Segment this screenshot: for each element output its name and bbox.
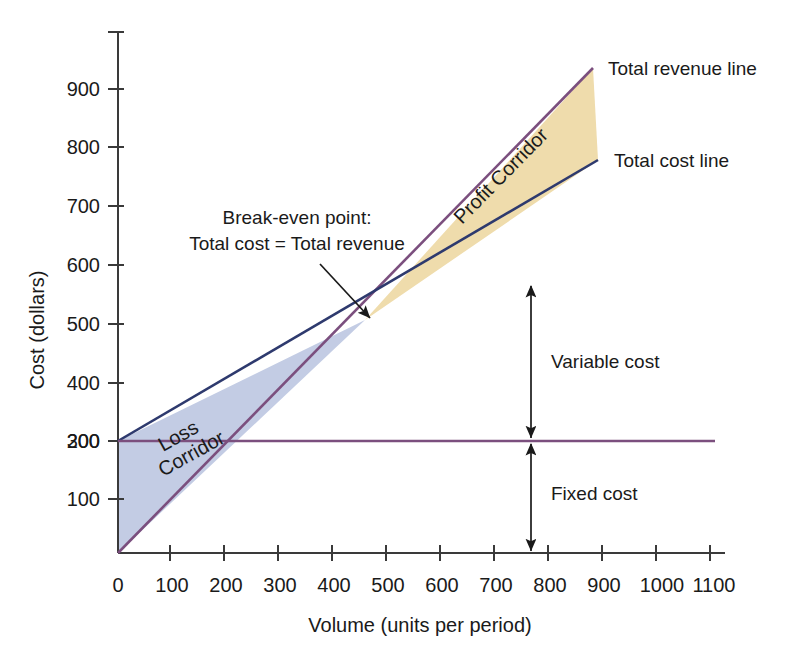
break-even-label-line1: Break-even point: — [223, 207, 372, 228]
x-tick-label-300: 300 — [263, 574, 296, 596]
x-axis-title: Volume (units per period) — [308, 614, 531, 636]
chart-background — [0, 0, 808, 656]
x-tick-label-0: 0 — [112, 574, 123, 596]
x-tick-label-500: 500 — [371, 574, 404, 596]
y-tick-label-900: 900 — [67, 78, 100, 100]
break-even-chart: 900 800 700 600 500 400 300 100 0 100 20… — [0, 0, 808, 656]
variable-cost-label: Variable cost — [551, 351, 660, 372]
total-cost-line-label: Total cost line — [614, 150, 729, 171]
y-tick-label-800: 800 — [67, 136, 100, 158]
x-tick-label-600: 600 — [425, 574, 458, 596]
fixed-cost-label: Fixed cost — [551, 483, 638, 504]
y-tick-label-700: 700 — [67, 195, 100, 217]
x-tick-label-200: 200 — [209, 574, 242, 596]
x-tick-label-900: 900 — [587, 574, 620, 596]
break-even-label-line2: Total cost = Total revenue — [189, 233, 405, 254]
x-tick-label-400: 400 — [317, 574, 350, 596]
y-tick-label-400: 400 — [67, 372, 100, 394]
total-revenue-line-label: Total revenue line — [608, 58, 757, 79]
x-tick-label-100: 100 — [155, 574, 188, 596]
y-axis-title: Cost (dollars) — [26, 271, 48, 390]
y-tick-label-600: 600 — [67, 254, 100, 276]
chart-canvas: 900 800 700 600 500 400 300 100 0 100 20… — [0, 0, 808, 656]
y-tick-label-100: 100 — [67, 488, 100, 510]
y-tick-label-200: 200 — [67, 430, 100, 452]
x-tick-label-800: 800 — [533, 574, 566, 596]
y-tick-label-500: 500 — [67, 313, 100, 335]
x-tick-label-700: 700 — [479, 574, 512, 596]
x-tick-label-1100: 1100 — [692, 574, 735, 596]
x-tick-label-1000: 1000 — [640, 574, 685, 596]
